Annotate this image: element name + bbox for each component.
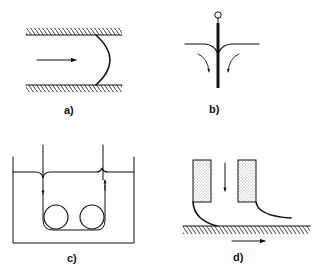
panel-c: c) [13,145,134,264]
left-roller [44,205,68,229]
bottom-wall-hatch [26,85,122,92]
right-roller [80,205,104,229]
right-meniscus [219,44,259,52]
substrate-hatch [183,226,310,234]
panel-c-label: c) [67,252,77,264]
top-wall-hatch [26,28,122,35]
panel-b-label: b) [209,103,220,115]
rod-end-circle [215,12,221,18]
panel-d-label: d) [233,251,244,263]
upstream-meniscus [193,202,217,226]
right-die-lip [238,160,256,202]
left-meniscus [185,44,217,52]
figure-canvas: a) b) c) d) [0,0,321,274]
panel-a-label: a) [64,104,74,116]
meniscus-curve [96,35,110,85]
left-flow-arrow-icon [198,54,209,72]
right-flow-arrow-icon [228,54,239,72]
panel-b: b) [185,12,259,115]
panel-a: a) [26,28,122,116]
coated-film [256,202,291,218]
panel-d: d) [183,160,310,263]
left-die-lip [193,160,211,202]
liquid-surface [13,168,134,178]
tape-path [43,185,105,230]
